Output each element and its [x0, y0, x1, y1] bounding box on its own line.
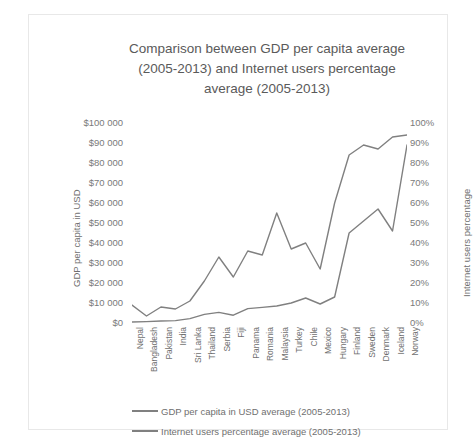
chart-title-line-2: (2005-2013) and Internet users percentag… — [67, 59, 467, 79]
y-axis-right-title: Internet users percentage — [461, 189, 472, 297]
chart-title: Comparison between GDP per capita averag… — [67, 39, 467, 99]
y-axis-left-tick-4: $60 000 — [59, 195, 123, 215]
x-axis-label-mexico: Mexico — [323, 327, 333, 354]
legend-line-swatch-gdp — [132, 410, 158, 412]
y-axis-right-ticks: 100%90%80%70%60%50%40%30%20%10%0% — [410, 115, 444, 335]
x-axis-label-india: India — [178, 327, 188, 345]
chart-title-line-3: average (2005-2013) — [67, 79, 467, 99]
y-axis-right-tick-9: 10% — [410, 295, 444, 315]
x-axis-label-chile: Chile — [309, 327, 319, 346]
y-axis-left-tick-10: $0 — [59, 315, 123, 335]
x-axis-label-sweden: Sweden — [367, 327, 377, 358]
x-axis-label-panama: Panama — [251, 327, 261, 359]
x-axis-label-sri-lanka: Sri Lanka — [193, 327, 203, 363]
y-axis-left-tick-6: $40 000 — [59, 235, 123, 255]
chart-plot-svg — [132, 123, 407, 323]
x-axis-labels: NepalBangladeshPakistanIndiaSri LankaTha… — [132, 327, 407, 389]
y-axis-left-tick-8: $20 000 — [59, 275, 123, 295]
x-axis-label-norway: Norway — [410, 327, 420, 356]
y-axis-right-tick-0: 100% — [410, 115, 444, 135]
y-axis-left-tick-3: $70 000 — [59, 175, 123, 195]
legend-label-internet: Internet users percentage average (2005-… — [161, 426, 361, 437]
y-axis-right-tick-2: 80% — [410, 155, 444, 175]
x-axis-label-thailand: Thailand — [207, 327, 217, 360]
y-axis-right-tick-7: 30% — [410, 255, 444, 275]
y-axis-left-tick-1: $90 000 — [59, 135, 123, 155]
legend-line-swatch-internet — [132, 430, 158, 432]
chart-container: Comparison between GDP per capita averag… — [28, 14, 448, 430]
x-axis-label-hungary: Hungary — [338, 327, 348, 359]
chart-legend: GDP per capita in USD average (2005-2013… — [132, 401, 432, 441]
x-axis-label-finland: Finland — [352, 327, 362, 355]
plot-area — [132, 123, 407, 323]
series-line-internet — [132, 135, 407, 316]
x-axis-label-serbia: Serbia — [222, 327, 232, 352]
x-axis-label-denmark: Denmark — [381, 327, 391, 361]
y-axis-right-tick-5: 50% — [410, 215, 444, 235]
y-axis-left-tick-5: $50 000 — [59, 215, 123, 235]
y-axis-right-tick-8: 20% — [410, 275, 444, 295]
x-axis-label-bangladesh: Bangladesh — [149, 327, 159, 372]
x-axis-label-turkey: Turkey — [294, 327, 304, 353]
y-axis-left-title: GDP per capita in USD — [71, 189, 82, 287]
chart-title-line-1: Comparison between GDP per capita averag… — [67, 39, 467, 59]
legend-item-gdp: GDP per capita in USD average (2005-2013… — [132, 401, 432, 421]
legend-label-gdp: GDP per capita in USD average (2005-2013… — [161, 406, 350, 417]
y-axis-right-tick-1: 90% — [410, 135, 444, 155]
x-axis-label-romania: Romania — [265, 327, 275, 361]
x-axis-label-nepal: Nepal — [135, 327, 145, 349]
y-axis-left-tick-2: $80 000 — [59, 155, 123, 175]
y-axis-right-tick-3: 70% — [410, 175, 444, 195]
y-axis-right-tick-6: 40% — [410, 235, 444, 255]
y-axis-left-tick-9: $10 000 — [59, 295, 123, 315]
x-axis-label-pakistan: Pakistan — [164, 327, 174, 360]
x-axis-label-iceland: Iceland — [396, 327, 406, 354]
y-axis-left-tick-7: $30 000 — [59, 255, 123, 275]
x-axis-label-fiji: Fiji — [236, 327, 246, 338]
x-axis-label-malaysia: Malaysia — [280, 327, 290, 361]
y-axis-right-tick-4: 60% — [410, 195, 444, 215]
legend-item-internet: Internet users percentage average (2005-… — [132, 421, 432, 441]
y-axis-left-tick-0: $100 000 — [59, 115, 123, 135]
y-axis-left-ticks: $100 000$90 000$80 000$70 000$60 000$50 … — [59, 115, 123, 335]
